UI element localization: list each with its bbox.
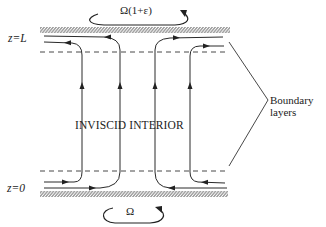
- arrow-right-icon: [203, 44, 210, 49]
- top-plate: [40, 27, 230, 33]
- boundary-layers-label-line1: Boundary: [270, 94, 313, 106]
- bottom-layer-arrows: [62, 180, 208, 191]
- arrow-left-icon: [104, 35, 111, 40]
- z-top-label: z=L: [8, 33, 27, 45]
- upward-arrows: [80, 82, 193, 89]
- bottom-plate: [40, 191, 228, 197]
- boundary-layers-pointer: [229, 42, 268, 166]
- arrow-right-icon: [62, 180, 69, 185]
- arrow-left-icon: [64, 40, 71, 45]
- arrow-up-icon: [153, 82, 158, 89]
- arrow-right-icon: [89, 186, 96, 191]
- inviscid-interior-label: INVISCID INTERIOR: [75, 120, 184, 132]
- streamline-1: [44, 42, 82, 182]
- arrow-up-icon: [118, 82, 123, 89]
- boundary-layers-label-line2: layers: [270, 106, 313, 118]
- streamlines: [44, 36, 227, 188]
- bottom-rotation-label: Ω: [126, 206, 134, 217]
- boundary-layers-label: Boundary layers: [270, 94, 313, 118]
- arrow-right-icon: [173, 35, 180, 40]
- arrow-left-icon: [201, 180, 208, 185]
- streamline-3: [155, 37, 227, 188]
- streamline-4: [190, 46, 225, 183]
- z-bottom-label: z=0: [7, 183, 25, 195]
- top-rotation-label: Ω(1+ε): [120, 5, 152, 16]
- arrow-left-icon: [168, 186, 175, 191]
- arrow-up-icon: [80, 82, 85, 89]
- ekman-flow-diagram: Ω(1+ε) Ω z=L z=0 INVISCID INTERIOR Bound…: [0, 0, 326, 227]
- arrow-up-icon: [188, 82, 193, 89]
